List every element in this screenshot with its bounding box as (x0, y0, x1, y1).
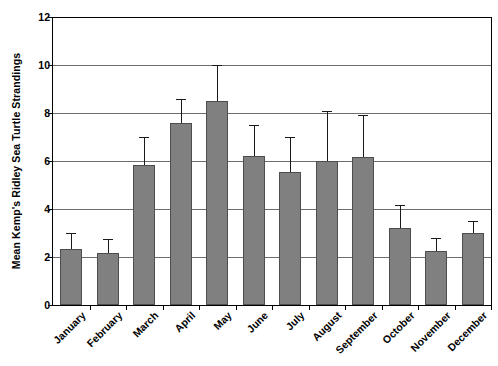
y-tick-label: 0 (26, 300, 50, 311)
error-bar-stem (144, 137, 145, 165)
error-bar-stem (473, 221, 474, 233)
y-tick-label: 2 (26, 252, 50, 263)
error-bar-stem (363, 115, 364, 157)
bar[interactable] (425, 251, 447, 305)
y-tick-mark (48, 161, 53, 162)
error-bar-stem (108, 239, 109, 253)
y-tick-mark (48, 209, 53, 210)
x-tick-label: February (84, 309, 124, 349)
bar[interactable] (279, 172, 301, 305)
y-tick-label: 8 (26, 108, 50, 119)
bar-group[interactable] (60, 17, 82, 305)
bar[interactable] (389, 228, 411, 305)
bar-group[interactable] (206, 17, 228, 305)
y-tick-label: 10 (26, 60, 50, 71)
error-bar-stem (217, 65, 218, 101)
bar[interactable] (206, 101, 228, 305)
bar[interactable] (170, 123, 192, 305)
bar-group[interactable] (279, 17, 301, 305)
y-tick-mark (48, 257, 53, 258)
x-tick-label: June (244, 309, 270, 335)
bar[interactable] (462, 233, 484, 305)
x-tick-label: May (211, 309, 234, 332)
x-tick-label: October (380, 309, 417, 346)
error-bar-stem (400, 205, 401, 228)
error-bar-cap (285, 137, 295, 138)
bar-group[interactable] (389, 17, 411, 305)
y-tick-mark (48, 17, 53, 18)
bar[interactable] (60, 249, 82, 305)
error-bar-stem (290, 137, 291, 172)
y-tick-label: 6 (26, 156, 50, 167)
error-bar-cap (176, 99, 186, 100)
y-tick-label: 12 (26, 12, 50, 23)
bar-group[interactable] (316, 17, 338, 305)
error-bar-cap (358, 115, 368, 116)
bar-group[interactable] (352, 17, 374, 305)
bar[interactable] (133, 165, 155, 305)
bar-group[interactable] (462, 17, 484, 305)
bar-group[interactable] (170, 17, 192, 305)
bar[interactable] (243, 156, 265, 305)
bar-group[interactable] (97, 17, 119, 305)
error-bar-cap (322, 111, 332, 112)
plot-area (52, 17, 491, 306)
error-bar-stem (254, 125, 255, 156)
error-bar-stem (327, 111, 328, 161)
x-tick-label: January (51, 309, 88, 346)
error-bar-cap (249, 125, 259, 126)
x-tick-mark (491, 305, 492, 310)
error-bar-cap (139, 137, 149, 138)
y-axis-title: Mean Kemp's Ridley Sea Turtle Strandings (7, 16, 25, 306)
bar[interactable] (352, 157, 374, 305)
error-bar-stem (71, 233, 72, 249)
y-tick-mark (48, 113, 53, 114)
error-bar-cap (212, 65, 222, 66)
bar-group[interactable] (425, 17, 447, 305)
x-tick-label: July (283, 309, 306, 332)
y-axis-title-text: Mean Kemp's Ridley Sea Turtle Strandings (10, 53, 22, 269)
x-tick-label: August (309, 309, 343, 343)
x-tick-label: March (130, 309, 160, 339)
error-bar-cap (431, 238, 441, 239)
error-bar-cap (103, 239, 113, 240)
y-axis-tick-labels: 024681012 (24, 0, 50, 366)
error-bar-stem (436, 238, 437, 251)
error-bar-cap (395, 205, 405, 206)
y-tick-label: 4 (26, 204, 50, 215)
error-bar-cap (468, 221, 478, 222)
error-bar-cap (66, 233, 76, 234)
bar[interactable] (316, 161, 338, 305)
y-tick-mark (48, 65, 53, 66)
error-bar-stem (181, 99, 182, 123)
bar-chart: Mean Kemp's Ridley Sea Turtle Strandings… (0, 0, 498, 366)
bar[interactable] (97, 253, 119, 305)
plot-frame-right-edge (491, 17, 492, 305)
x-tick-label: April (172, 309, 197, 334)
x-axis-tick-labels: JanuaryFebruaryMarchAprilMayJuneJulyAugu… (52, 305, 490, 366)
bar-group[interactable] (133, 17, 155, 305)
bar-group[interactable] (243, 17, 265, 305)
